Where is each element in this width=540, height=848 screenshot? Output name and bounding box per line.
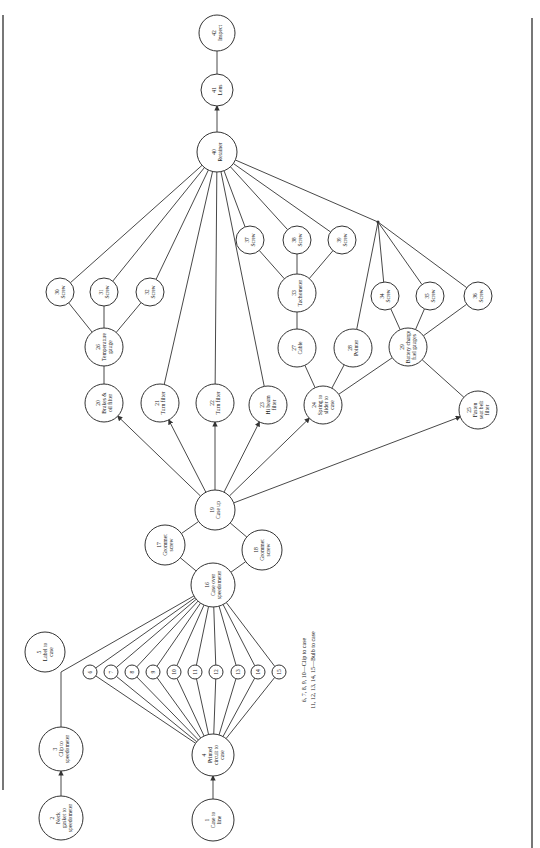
node-label: Screw xyxy=(478,289,484,302)
edge-19-to-23 xyxy=(224,422,259,492)
node-label: Inspect xyxy=(217,24,223,41)
node-18: 18Grommetscrew xyxy=(242,530,282,570)
node-9: 9 xyxy=(146,665,160,679)
node-24: 24Spring toslider tocase xyxy=(304,386,342,424)
node-label: Turn filter xyxy=(215,391,221,414)
node-label: gauge xyxy=(107,340,113,354)
edge-J1-to-40 xyxy=(235,160,378,222)
node-label: Battery charge xyxy=(405,330,411,363)
edge-38-to-40 xyxy=(230,167,287,230)
node-number: 16 xyxy=(204,582,210,588)
edge-11-to-16 xyxy=(196,607,208,666)
edge-16-to-18 xyxy=(231,562,246,573)
edge-16-to-17 xyxy=(180,558,196,571)
node-label: slider to xyxy=(323,396,329,414)
node-label: Screw xyxy=(342,233,348,246)
node-13: 13 xyxy=(231,665,245,679)
node-label: Tachometer xyxy=(297,280,303,306)
node-number: 26 xyxy=(95,344,101,350)
edge-4-to-9 xyxy=(157,678,201,738)
edge-34-to-J1 xyxy=(378,222,384,282)
footnote: 6, 7, 8, 9, 10—Clip to case 11, 12, 13, … xyxy=(301,631,316,709)
node-20: 20Brakes &oil filter xyxy=(85,384,123,422)
node-number: 1 xyxy=(204,818,210,821)
node-label: Grommet xyxy=(259,539,265,561)
node-37: 37Screw xyxy=(236,226,264,254)
node-number: 7 xyxy=(108,670,114,673)
edge-4-to-10 xyxy=(177,678,204,736)
edge-19-to-25 xyxy=(234,417,461,503)
node-number: 25 xyxy=(466,407,472,413)
edge-39-to-40 xyxy=(233,164,330,232)
edge-9-to-16 xyxy=(157,603,201,666)
node-number: 42 xyxy=(211,30,217,36)
node-label: Printed xyxy=(207,747,213,763)
node-25: 25Fastenseat beltfilter xyxy=(459,391,497,429)
node-label: screw xyxy=(168,538,174,552)
node-number: 23 xyxy=(259,402,265,408)
node-30: 30Screw xyxy=(46,278,74,306)
node-label: Label to xyxy=(42,643,48,662)
edge-23-to-40 xyxy=(221,172,264,387)
node-19: 19Case up xyxy=(195,490,235,530)
node-label: filter xyxy=(271,399,277,410)
node-number: 5 xyxy=(36,650,42,653)
node-8: 8 xyxy=(125,665,139,679)
node-label: Case to xyxy=(210,811,216,828)
node-label: Retainer xyxy=(217,142,223,161)
node-number: 28 xyxy=(347,345,353,351)
node-label: Screw xyxy=(430,289,436,302)
node-22: 22Turn filter xyxy=(196,384,234,422)
node-number: 15 xyxy=(276,669,282,675)
node-label: case xyxy=(219,750,225,760)
node-15: 15 xyxy=(272,665,286,679)
node-number: 9 xyxy=(150,670,156,673)
node-number: 13 xyxy=(235,669,241,675)
node-7: 7 xyxy=(104,665,118,679)
node-label: Lens xyxy=(217,85,223,96)
node-label: filter xyxy=(484,404,490,415)
node-2: 2Neckgasket tospeedometer xyxy=(39,796,83,840)
node-number: 11 xyxy=(192,669,198,675)
edge-17-to-19 xyxy=(181,521,198,533)
node-35: 35Screw xyxy=(416,282,444,310)
node-label: speedometer xyxy=(67,804,73,832)
node-29: 29Battery chargefuel gauges xyxy=(389,328,427,366)
junction-point xyxy=(377,221,380,224)
node-label: Screw xyxy=(250,233,256,246)
node-label: Grommet xyxy=(162,534,168,556)
edge-29-to-35 xyxy=(416,309,425,330)
node-36: 36Screw xyxy=(464,282,492,310)
node-label: case xyxy=(329,400,335,410)
edge-18-to-19 xyxy=(230,523,247,537)
node-label: Neck xyxy=(55,812,61,824)
node-11: 11 xyxy=(188,665,202,679)
node-number: 3 xyxy=(52,747,58,750)
node-33: 33Tachometer xyxy=(278,274,316,312)
edge-24-to-28 xyxy=(332,365,344,388)
edge-12-to-16 xyxy=(214,607,216,665)
node-number: 6 xyxy=(87,670,93,673)
edge-26-to-32 xyxy=(116,303,141,333)
node-23: 23Hi beamfilter xyxy=(249,386,287,424)
node-number: 20 xyxy=(95,400,101,406)
node-number: 2 xyxy=(49,816,55,819)
node-label: Cable xyxy=(297,341,303,355)
edge-4-to-13 xyxy=(219,679,236,735)
edge-36-to-J1 xyxy=(378,222,467,288)
node-32: 32Screw xyxy=(136,278,164,306)
node-label: Screw xyxy=(385,289,391,302)
edge-4-to-12 xyxy=(214,679,216,734)
footnote-line-2: 11, 12, 13, 14, 15—Bulb to case xyxy=(310,631,316,709)
node-label: speedometer xyxy=(216,571,222,599)
node-21: 21Turn filter xyxy=(141,384,179,422)
node-16: 16Case overspeedometer xyxy=(191,563,235,607)
node-number: 4 xyxy=(201,753,207,756)
node-number: 22 xyxy=(209,400,215,406)
node-5: 5Label tocase xyxy=(25,632,65,672)
node-14: 14 xyxy=(251,665,265,679)
node-number: 27 xyxy=(291,345,297,351)
node-label: Spring to xyxy=(317,394,323,415)
edge-26-to-30 xyxy=(69,303,92,332)
node-number: 8 xyxy=(129,670,135,673)
